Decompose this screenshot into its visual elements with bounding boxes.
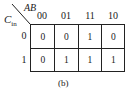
kmap-cell: 0: [31, 25, 55, 49]
kmap-cell: 0: [102, 25, 126, 49]
kmap-cell: 1: [78, 48, 102, 72]
col-header: 01: [54, 11, 78, 21]
kmap-cell: 1: [102, 48, 126, 72]
kmap-cell: 0: [31, 48, 55, 72]
col-header: 11: [78, 11, 102, 21]
row-header: 0: [20, 31, 28, 41]
col-header: 10: [101, 11, 125, 21]
col-header: 00: [30, 11, 54, 21]
figure-caption: (b): [58, 78, 69, 88]
kmap-cell: 1: [55, 48, 79, 72]
row-header: 1: [20, 55, 28, 65]
row-variable-label: Cin: [4, 13, 17, 28]
kmap-cell: 0: [55, 25, 79, 49]
kmap-grid: 0 0 1 0 0 1 1 1: [30, 24, 125, 72]
kmap-cell: 1: [78, 25, 102, 49]
